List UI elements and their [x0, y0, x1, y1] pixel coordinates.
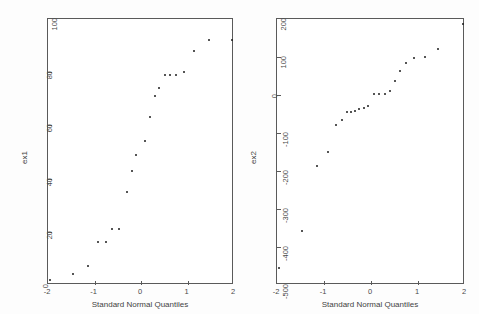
y-axis-title-left: ex1 — [20, 151, 29, 164]
x-axis-tick-label: 0 — [138, 288, 142, 296]
y-axis-tick-label: 60 — [46, 124, 54, 132]
x-axis-tick-label: 2 — [462, 288, 466, 296]
axis-tick-labels-right: -500-400-300-200-1000100200-2-1012 — [239, 0, 479, 314]
x-axis-tick-label: 2 — [231, 288, 235, 296]
x-axis-tick-label: 1 — [184, 288, 188, 296]
y-axis-tick-label: 200 — [280, 18, 288, 31]
y-axis-tick-label: 100 — [280, 56, 288, 69]
x-axis-title-right: Standard Normal Quantiles — [322, 300, 419, 309]
qq-plot-panel-right: -500-400-300-200-1000100200-2-1012 Stand… — [239, 0, 479, 314]
y-axis-tick-label: -100 — [282, 132, 290, 147]
x-axis-title-left: Standard Normal Quantiles — [92, 300, 189, 309]
qq-plot-panel-left: 020406080100-2-1012 Standard Normal Quan… — [0, 0, 240, 314]
y-axis-title-right: ex2 — [249, 151, 258, 164]
y-axis-tick-label: 100 — [51, 18, 59, 31]
y-axis-tick-label: -200 — [282, 170, 290, 185]
x-axis-tick-label: -1 — [320, 288, 327, 296]
x-axis-tick-label: -2 — [44, 288, 51, 296]
axis-tick-labels-left: 020406080100-2-1012 — [0, 0, 240, 314]
y-axis-tick-label: -400 — [282, 246, 290, 261]
x-axis-tick-label: 1 — [415, 288, 419, 296]
x-axis-tick-label: 0 — [368, 288, 372, 296]
y-axis-tick-label: 80 — [46, 71, 54, 79]
figure-canvas: 020406080100-2-1012 Standard Normal Quan… — [0, 0, 479, 314]
y-axis-tick-label: -500 — [282, 284, 290, 299]
x-axis-tick-label: -2 — [273, 288, 280, 296]
y-axis-tick-label: -300 — [282, 208, 290, 223]
y-axis-tick-label: 40 — [46, 178, 54, 186]
x-axis-tick-label: -1 — [90, 288, 97, 296]
y-axis-tick-label: 20 — [46, 231, 54, 239]
y-axis-tick-label: 0 — [271, 94, 279, 98]
